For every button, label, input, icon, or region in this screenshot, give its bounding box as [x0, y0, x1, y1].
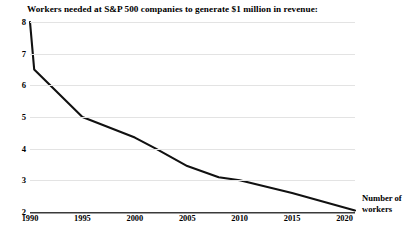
x-axis: 1990199520002005201020152020: [30, 215, 355, 231]
y-tick-label-3: 3: [4, 176, 26, 185]
y-axis-annotation-line2: workers: [362, 204, 414, 215]
gridline-y-8: [30, 22, 355, 23]
gridline-y-3: [30, 180, 355, 181]
x-tick-label-1990: 1990: [22, 215, 39, 223]
chart-container: Workers needed at S&P 500 companies to g…: [0, 0, 415, 246]
chart-title: Workers needed at S&P 500 companies to g…: [27, 4, 318, 15]
gridline-y-7: [30, 54, 355, 55]
y-axis-annotation: Number of workers: [362, 193, 414, 215]
x-tick-label-2015: 2015: [284, 215, 301, 223]
y-tick-label-4: 4: [4, 144, 26, 153]
gridline-y-4: [30, 149, 355, 150]
gridline-y-6: [30, 85, 355, 86]
y-axis: 2345678: [0, 22, 26, 212]
y-tick-label-7: 7: [4, 49, 26, 58]
plot-area: [30, 22, 355, 212]
gridline-y-5: [30, 117, 355, 118]
axis-baseline: [30, 212, 355, 213]
x-tick-label-1995: 1995: [74, 215, 91, 223]
x-tick-label-2000: 2000: [126, 215, 143, 223]
x-tick-label-2010: 2010: [231, 215, 248, 223]
y-tick-label-5: 5: [4, 113, 26, 122]
y-axis-annotation-line1: Number of: [362, 193, 414, 204]
y-tick-label-6: 6: [4, 81, 26, 90]
x-tick-label-2020: 2020: [336, 215, 353, 223]
y-tick-label-8: 8: [4, 18, 26, 27]
x-tick-label-2005: 2005: [179, 215, 196, 223]
